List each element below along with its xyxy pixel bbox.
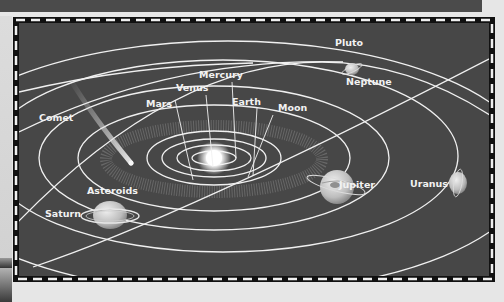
label-mars: Mars (146, 98, 173, 109)
label-asteroids: Asteroids (87, 185, 138, 196)
top-bar (0, 0, 482, 12)
solar-system-diagram: Pluto Neptune Mercury Venus Earth Moon M… (13, 17, 495, 282)
label-moon: Moon (278, 102, 308, 113)
label-saturn: Saturn (45, 208, 81, 219)
label-uranus: Uranus (410, 178, 448, 189)
label-comet: Comet (39, 112, 74, 123)
left-page-strip-shadow (0, 258, 12, 268)
label-jupiter: Jupiter (338, 179, 375, 190)
comet-head (129, 161, 134, 166)
label-venus: Venus (176, 82, 209, 93)
label-earth: Earth (232, 96, 261, 107)
label-pluto: Pluto (335, 37, 364, 48)
top-bar-edge (482, 0, 504, 12)
label-neptune: Neptune (346, 76, 392, 87)
label-mercury: Mercury (199, 69, 244, 80)
